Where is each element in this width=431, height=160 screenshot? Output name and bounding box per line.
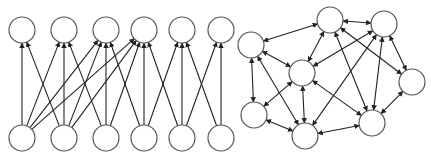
left-node-B4 bbox=[169, 125, 195, 151]
left-node-B0 bbox=[9, 125, 35, 151]
recurrent-network-graph bbox=[238, 7, 425, 149]
left-node-B1 bbox=[51, 125, 77, 151]
right-edge-A-B bbox=[343, 21, 371, 23]
left-node-T2 bbox=[93, 17, 119, 43]
right-node-B bbox=[371, 11, 397, 37]
left-edge-B1-T3 bbox=[72, 40, 137, 127]
right-node-F bbox=[241, 102, 267, 128]
left-node-B2 bbox=[93, 125, 119, 151]
left-edge-B0-T3 bbox=[32, 39, 135, 130]
right-node-C bbox=[238, 32, 264, 58]
right-edge-D-G bbox=[303, 86, 305, 123]
right-edge-A-D bbox=[308, 32, 324, 62]
left-node-B3 bbox=[131, 125, 157, 151]
feedforward-network-graph bbox=[9, 17, 234, 151]
right-edge-D-F bbox=[264, 82, 292, 107]
right-edge-G-H bbox=[318, 126, 359, 134]
right-edge-F-G bbox=[266, 120, 293, 131]
right-node-A bbox=[317, 7, 343, 33]
right-edge-C-F bbox=[252, 58, 254, 102]
right-graph-nodes bbox=[238, 7, 425, 149]
right-node-G bbox=[292, 123, 318, 149]
right-node-H bbox=[359, 110, 385, 136]
right-node-D bbox=[289, 60, 315, 86]
right-edge-C-D bbox=[262, 51, 290, 66]
left-node-B5 bbox=[208, 125, 234, 151]
right-edge-A-C bbox=[263, 24, 317, 41]
left-node-T3 bbox=[131, 17, 157, 43]
left-node-T5 bbox=[208, 17, 234, 43]
left-node-T1 bbox=[51, 17, 77, 43]
diagram-canvas bbox=[0, 0, 431, 160]
right-edge-D-H bbox=[313, 81, 362, 116]
left-graph-edges bbox=[22, 39, 221, 130]
left-node-T0 bbox=[9, 17, 35, 43]
right-edge-E-H bbox=[381, 91, 403, 113]
right-edge-B-D bbox=[313, 31, 373, 67]
right-node-E bbox=[399, 69, 425, 95]
left-node-T4 bbox=[169, 17, 195, 43]
right-edge-B-H bbox=[374, 37, 383, 110]
right-edge-B-E bbox=[390, 36, 407, 71]
